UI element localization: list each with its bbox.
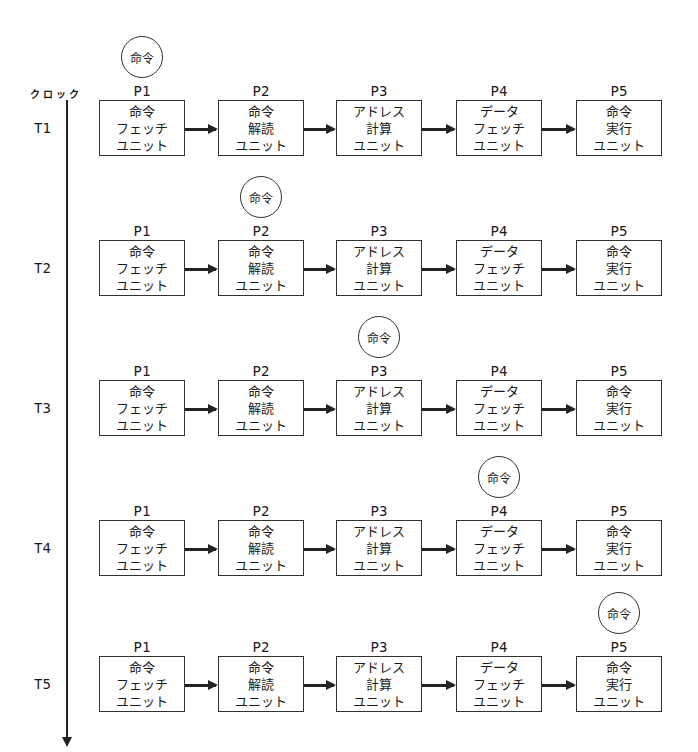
flow-arrow-icon xyxy=(304,408,334,411)
stage-box-text-line: 命令 xyxy=(248,383,274,400)
stage-box-text-line: ユニット xyxy=(353,417,405,434)
stage-box-text-line: 命令 xyxy=(248,103,274,120)
stage-box-text-line: 解読 xyxy=(248,400,274,417)
stage-id-label: P1 xyxy=(98,363,186,379)
time-step-label: T5 xyxy=(34,676,51,692)
instruction-token-circle: 命令 xyxy=(121,36,163,78)
stage-box-text-line: ユニット xyxy=(116,557,168,574)
stage-box-text-line: 命令 xyxy=(606,523,632,540)
stage-box-text-line: データ xyxy=(480,523,519,540)
stage-box-text-line: ユニット xyxy=(593,693,645,710)
stage-box-p4: データフェッチユニット xyxy=(456,380,542,436)
stage-box-text-line: フェッチ xyxy=(116,676,168,693)
stage-box-p1: 命令フェッチユニット xyxy=(99,240,185,296)
stage-box-text-line: アドレス xyxy=(353,103,405,120)
flow-arrow-icon xyxy=(304,128,334,131)
stage-box-text-line: 命令 xyxy=(129,383,155,400)
clock-axis-label: クロック xyxy=(30,86,82,101)
stage-id-label: P4 xyxy=(455,223,543,239)
stage-box-text-line: ユニット xyxy=(235,693,287,710)
stage-id-label: P5 xyxy=(575,223,663,239)
stage-box-text-line: フェッチ xyxy=(116,540,168,557)
clock-axis-arrowhead-icon xyxy=(62,737,72,747)
stage-box-text-line: データ xyxy=(480,243,519,260)
stage-box-text-line: 命令 xyxy=(606,103,632,120)
stage-id-label: P4 xyxy=(455,363,543,379)
flow-arrow-icon xyxy=(422,268,454,271)
stage-box-p1: 命令フェッチユニット xyxy=(99,380,185,436)
stage-box-text-line: データ xyxy=(480,659,519,676)
stage-box-p2: 命令解読ユニット xyxy=(218,380,304,436)
stage-id-label: P5 xyxy=(575,83,663,99)
stage-box-text-line: フェッチ xyxy=(116,260,168,277)
stage-box-text-line: 解読 xyxy=(248,540,274,557)
flow-arrow-icon xyxy=(542,128,574,131)
stage-box-text-line: ユニット xyxy=(235,417,287,434)
stage-box-p5: 命令実行ユニット xyxy=(576,100,662,156)
stage-id-label: P2 xyxy=(217,363,305,379)
instruction-token-circle: 命令 xyxy=(598,592,640,634)
stage-box-p5: 命令実行ユニット xyxy=(576,520,662,576)
stage-box-text-line: 命令 xyxy=(248,243,274,260)
instruction-token-circle: 命令 xyxy=(478,456,520,498)
stage-box-p3: アドレス計算ユニット xyxy=(336,520,422,576)
stage-box-text-line: データ xyxy=(480,103,519,120)
stage-box-text-line: ユニット xyxy=(116,137,168,154)
stage-id-label: P4 xyxy=(455,83,543,99)
flow-arrow-icon xyxy=(185,684,216,687)
stage-box-text-line: フェッチ xyxy=(473,540,525,557)
stage-box-text-line: フェッチ xyxy=(473,260,525,277)
stage-box-text-line: 命令 xyxy=(129,659,155,676)
stage-box-text-line: 解読 xyxy=(248,260,274,277)
stage-box-text-line: 計算 xyxy=(366,260,392,277)
stage-id-label: P4 xyxy=(455,503,543,519)
flow-arrow-icon xyxy=(185,128,216,131)
stage-box-text-line: フェッチ xyxy=(473,400,525,417)
stage-box-text-line: 命令 xyxy=(606,383,632,400)
time-step-label: T2 xyxy=(34,260,51,276)
stage-box-text-line: ユニット xyxy=(353,137,405,154)
stage-box-text-line: 計算 xyxy=(366,400,392,417)
flow-arrow-icon xyxy=(422,408,454,411)
stage-box-p5: 命令実行ユニット xyxy=(576,380,662,436)
stage-box-text-line: 命令 xyxy=(248,659,274,676)
flow-arrow-icon xyxy=(542,268,574,271)
stage-id-label: P3 xyxy=(335,503,423,519)
stage-box-text-line: 実行 xyxy=(606,540,632,557)
stage-box-p3: アドレス計算ユニット xyxy=(336,240,422,296)
stage-id-label: P5 xyxy=(575,363,663,379)
flow-arrow-icon xyxy=(542,408,574,411)
stage-id-label: P1 xyxy=(98,83,186,99)
stage-id-label: P2 xyxy=(217,639,305,655)
stage-box-text-line: 命令 xyxy=(129,103,155,120)
flow-arrow-icon xyxy=(422,684,454,687)
stage-id-label: P3 xyxy=(335,223,423,239)
stage-box-text-line: ユニット xyxy=(593,137,645,154)
stage-box-text-line: ユニット xyxy=(473,693,525,710)
stage-box-text-line: 解読 xyxy=(248,120,274,137)
stage-id-label: P1 xyxy=(98,223,186,239)
stage-box-text-line: 計算 xyxy=(366,676,392,693)
flow-arrow-icon xyxy=(185,268,216,271)
stage-box-p4: データフェッチユニット xyxy=(456,656,542,712)
flow-arrow-icon xyxy=(304,548,334,551)
stage-id-label: P1 xyxy=(98,639,186,655)
stage-box-text-line: フェッチ xyxy=(116,400,168,417)
stage-box-text-line: ユニット xyxy=(235,557,287,574)
stage-box-text-line: 命令 xyxy=(129,523,155,540)
stage-box-text-line: ユニット xyxy=(473,417,525,434)
stage-box-text-line: 実行 xyxy=(606,120,632,137)
stage-id-label: P1 xyxy=(98,503,186,519)
flow-arrow-icon xyxy=(304,684,334,687)
stage-id-label: P3 xyxy=(335,639,423,655)
instruction-token-circle: 命令 xyxy=(358,316,400,358)
time-step-label: T1 xyxy=(34,120,51,136)
stage-box-text-line: ユニット xyxy=(116,693,168,710)
stage-id-label: P3 xyxy=(335,363,423,379)
stage-box-p2: 命令解読ユニット xyxy=(218,656,304,712)
stage-box-text-line: アドレス xyxy=(353,659,405,676)
stage-box-text-line: ユニット xyxy=(593,417,645,434)
stage-box-text-line: ユニット xyxy=(473,557,525,574)
stage-box-text-line: アドレス xyxy=(353,383,405,400)
stage-box-p2: 命令解読ユニット xyxy=(218,520,304,576)
